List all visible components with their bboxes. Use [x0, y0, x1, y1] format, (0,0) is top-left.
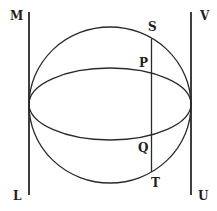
label-V: V	[199, 9, 210, 23]
sphere-outline	[29, 27, 191, 183]
label-L: L	[13, 189, 22, 203]
label-T: T	[151, 176, 160, 190]
label-U: U	[198, 189, 209, 203]
label-M: M	[10, 9, 23, 23]
label-Q: Q	[138, 141, 148, 155]
label-P: P	[139, 56, 148, 70]
equator-ellipse	[29, 68, 191, 140]
label-S: S	[148, 20, 157, 34]
sphere-diagram: M L V U S P Q T	[0, 0, 217, 211]
